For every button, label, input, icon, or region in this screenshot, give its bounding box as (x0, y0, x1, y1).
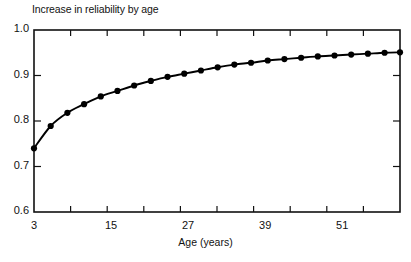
x-axis-title: Age (years) (0, 236, 411, 248)
data-point (315, 53, 321, 59)
data-point (48, 123, 54, 129)
axes-frame (34, 30, 400, 212)
x-axis-tick-label: 51 (322, 219, 362, 231)
data-point-markers (31, 49, 403, 151)
y-axis-tick-label: 1.0 (0, 22, 29, 34)
data-point (397, 49, 403, 55)
x-axis-tick-label: 3 (14, 219, 54, 231)
data-point (365, 51, 371, 57)
data-point (181, 71, 187, 77)
y-axis-tick-label: 0.8 (0, 113, 29, 125)
data-point (164, 74, 170, 80)
data-point (331, 52, 337, 58)
x-axis-tick-label: 27 (168, 219, 208, 231)
data-point (81, 101, 87, 107)
figure-container: Increase in reliability by age 1.00.90.8… (0, 0, 411, 262)
data-point (31, 145, 37, 151)
data-point (265, 57, 271, 63)
x-axis-tick-label: 39 (245, 219, 285, 231)
data-point (298, 55, 304, 61)
x-axis-tick-label: 15 (91, 219, 131, 231)
data-point (348, 51, 354, 57)
data-point (131, 82, 137, 88)
data-point (64, 110, 70, 116)
data-point (114, 88, 120, 94)
y-axis-tick-label: 0.9 (0, 68, 29, 80)
data-point (148, 78, 154, 84)
data-point (281, 56, 287, 62)
tick-marks (34, 30, 400, 212)
data-point (248, 60, 254, 66)
data-point (231, 61, 237, 67)
y-axis-tick-label: 0.6 (0, 204, 29, 216)
data-point (381, 50, 387, 56)
data-point (98, 93, 104, 99)
y-axis-tick-label: 0.7 (0, 159, 29, 171)
data-point (198, 67, 204, 73)
data-point (215, 64, 221, 70)
